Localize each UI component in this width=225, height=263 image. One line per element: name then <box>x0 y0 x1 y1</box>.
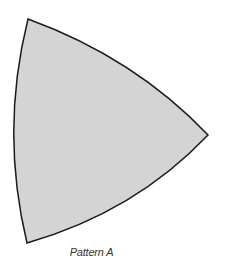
pattern-diagram <box>0 0 225 263</box>
pattern-caption: Pattern A <box>0 246 183 258</box>
curved-triangle-shape <box>14 19 208 243</box>
